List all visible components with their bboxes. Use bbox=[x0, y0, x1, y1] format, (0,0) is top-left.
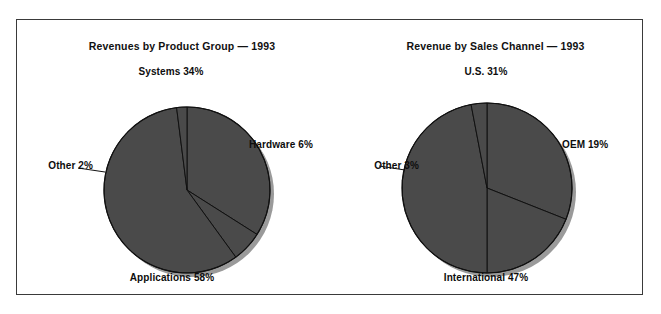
pie-label-systems: Systems 34% bbox=[138, 66, 203, 77]
pie-label-oem: OEM 19% bbox=[562, 139, 608, 150]
chart-panel-sales-channel: Revenue by Sales Channel — 1993 U.S. 31%… bbox=[347, 20, 644, 296]
chart-title-sales-channel: Revenue by Sales Channel — 1993 bbox=[347, 40, 644, 52]
pie-label-us: U.S. 31% bbox=[464, 66, 507, 77]
pie-label-applications: Applications 58% bbox=[130, 272, 214, 283]
pie-chart-sales-channel bbox=[375, 76, 595, 280]
clipped-header-text bbox=[150, 0, 530, 9]
pie-label-international: International 47% bbox=[444, 272, 529, 283]
pie-label-other-product: Other 2% bbox=[48, 160, 93, 171]
figure-frame: Revenues by Product Group — 1993 Systems… bbox=[16, 19, 643, 295]
figure-stage: Revenues by Product Group — 1993 Systems… bbox=[0, 0, 661, 314]
pie-chart-product-group bbox=[72, 78, 292, 278]
chart-title-product-group: Revenues by Product Group — 1993 bbox=[17, 40, 347, 52]
pie-label-other-channel: Other 3% bbox=[374, 160, 419, 171]
chart-panel-product-group: Revenues by Product Group — 1993 Systems… bbox=[17, 20, 347, 296]
pie-label-hardware: Hardware 6% bbox=[249, 139, 313, 150]
